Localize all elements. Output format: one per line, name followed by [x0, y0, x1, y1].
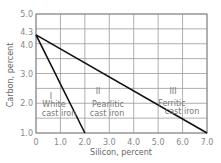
x-tick-label: 6.0 — [176, 138, 189, 147]
region-1-label-line2: cast iron — [42, 109, 76, 118]
chart: 01.02.03.04.05.06.07.0 1.02.03.04.04.35.… — [0, 0, 221, 163]
region-2-numeral: II — [96, 87, 101, 96]
y-tick-label: 4.0 — [20, 41, 33, 50]
region-3-numeral: III — [169, 87, 176, 96]
x-tick-label: 2.0 — [78, 138, 91, 147]
y-tick-label: 2.0 — [20, 99, 33, 108]
region-2-label-line1: Pearlitic — [92, 100, 124, 109]
x-ticks: 01.02.03.04.05.06.07.0 — [33, 138, 213, 147]
y-tick-label: 5.0 — [20, 10, 33, 19]
y-ticks: 1.02.03.04.04.35.0 — [20, 10, 33, 138]
x-tick-label: 4.0 — [127, 138, 140, 147]
region-2-label-line2: cast iron — [90, 109, 124, 118]
x-tick-label: 3.0 — [103, 138, 116, 147]
region-3-label-line2: cast iron — [165, 107, 199, 116]
y-tick-label: 3.0 — [20, 70, 33, 79]
region-1-label-line1: White — [42, 100, 65, 109]
y-axis-label: Carbon, percent — [6, 43, 15, 108]
x-axis-label: Silicon, percent — [90, 148, 152, 157]
x-tick-label: 1.0 — [54, 138, 67, 147]
x-tick-label: 7.0 — [201, 138, 214, 147]
x-tick-label: 0 — [33, 138, 38, 147]
y-tick-label: 1.0 — [20, 129, 33, 138]
x-tick-label: 5.0 — [152, 138, 165, 147]
y-tick-label: 4.3 — [20, 28, 33, 37]
